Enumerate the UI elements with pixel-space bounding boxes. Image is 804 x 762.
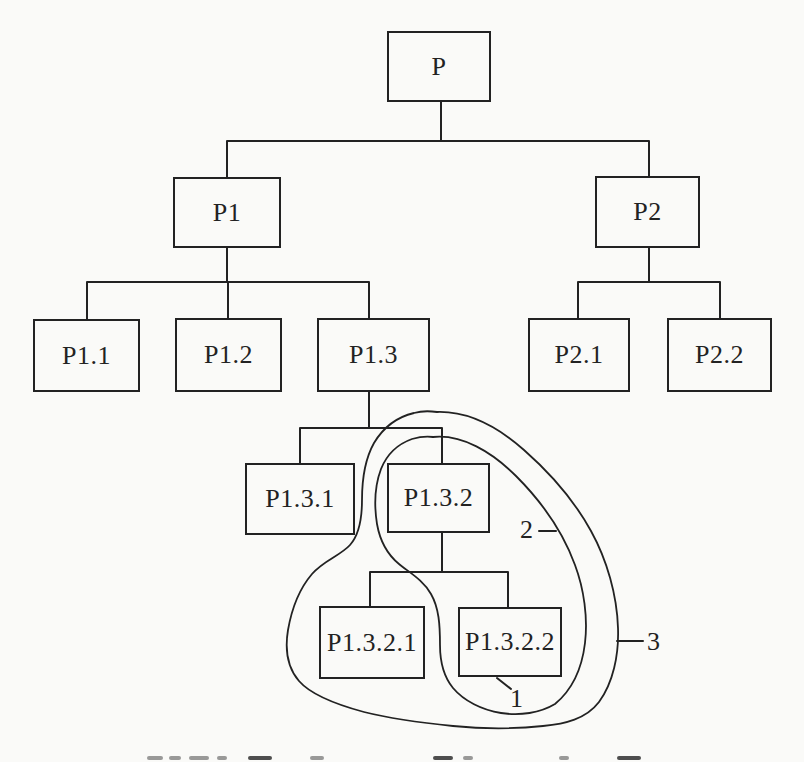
- tree-node-p1-2: P1.2: [175, 318, 282, 392]
- connector-p2: [578, 248, 720, 318]
- tree-node-p2-2: P2.2: [667, 318, 772, 392]
- connector-p13: [300, 392, 442, 463]
- label-1-leader-line: [497, 678, 511, 689]
- tree-node-p1: P1: [173, 177, 281, 248]
- connector-p132: [370, 533, 508, 607]
- caption-fragment: [145, 754, 650, 762]
- annotation-label-2: 2: [520, 517, 533, 543]
- tree-node-p1-3-2-2: P1.3.2.2: [458, 607, 562, 677]
- figure-canvas: P P1 P2 P1.1 P1.2 P1.3 P2.1 P2.2 P1.3.1 …: [0, 0, 804, 762]
- tree-node-p1-3-2: P1.3.2: [387, 463, 490, 533]
- annotation-label-3: 3: [647, 629, 660, 655]
- tree-node-p1-3-1: P1.3.1: [245, 463, 355, 535]
- tree-node-p2: P2: [595, 176, 700, 248]
- connector-p: [227, 102, 649, 177]
- connector-p1: [87, 248, 369, 319]
- loop-3-outline: [287, 411, 618, 728]
- tree-node-p: P: [387, 31, 491, 102]
- tree-node-p1-3: P1.3: [317, 318, 430, 392]
- tree-node-p1-3-2-1: P1.3.2.1: [319, 606, 425, 679]
- annotation-label-1: 1: [510, 686, 523, 712]
- tree-node-p1-1: P1.1: [33, 319, 140, 392]
- tree-node-p2-1: P2.1: [528, 318, 630, 392]
